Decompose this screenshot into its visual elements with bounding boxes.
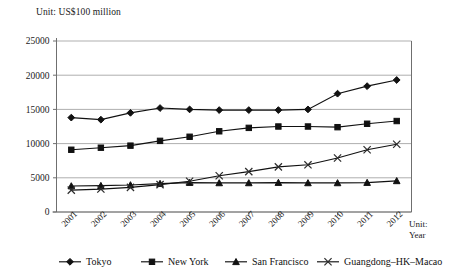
- data-point: [157, 105, 164, 112]
- y-tick-label: 15000: [26, 105, 50, 115]
- data-point: [69, 147, 74, 152]
- data-point: [128, 143, 133, 148]
- data-point: [276, 124, 281, 129]
- chart-legend: TokyoNew YorkSan FranciscoGuangdong–HK–M…: [59, 256, 442, 267]
- data-point: [98, 145, 103, 150]
- series-tokyo: [68, 77, 400, 123]
- data-point: [216, 107, 223, 114]
- data-point: [187, 134, 192, 139]
- data-point: [68, 114, 75, 121]
- legend-label: New York: [168, 256, 209, 267]
- data-point: [334, 90, 341, 97]
- y-tick-label: 5000: [31, 173, 50, 183]
- y-tick-label: 20000: [26, 71, 50, 81]
- gridlines: [57, 41, 412, 212]
- data-point: [364, 121, 369, 126]
- line-chart: Unit: US$100 million Unit: Year 05000100…: [0, 0, 449, 276]
- data-point: [246, 125, 251, 130]
- data-point: [364, 83, 371, 90]
- series-line: [71, 121, 396, 150]
- data-point: [393, 77, 400, 84]
- data-point: [127, 109, 134, 116]
- data-point: [275, 107, 282, 114]
- legend-marker-square: [149, 259, 154, 264]
- legend-item-guangdong-hk-macao[interactable]: Guangdong–HK–Macao: [317, 256, 442, 267]
- series-san-francisco: [68, 178, 400, 189]
- legend-label: San Francisco: [252, 256, 308, 267]
- data-point: [305, 106, 312, 113]
- data-point: [217, 129, 222, 134]
- legend-item-tokyo[interactable]: Tokyo: [59, 256, 111, 267]
- y-tick-label: 0: [45, 207, 50, 217]
- y-tick-label: 10000: [26, 139, 50, 149]
- data-point: [157, 138, 162, 143]
- y-tick-label: 25000: [26, 36, 50, 46]
- data-point: [97, 116, 104, 123]
- series-new-york: [69, 118, 400, 152]
- data-point: [305, 124, 310, 129]
- series-line: [71, 181, 396, 186]
- data-point: [394, 118, 399, 123]
- y-axis-tick-labels: 0500010000150002000025000: [26, 36, 50, 217]
- legend-item-new-york[interactable]: New York: [141, 256, 209, 267]
- series-layer: [68, 77, 401, 194]
- legend-label: Tokyo: [86, 256, 111, 267]
- data-point: [186, 106, 193, 113]
- legend-marker-diamond: [67, 258, 74, 265]
- series-line: [71, 80, 396, 120]
- legend-item-san-francisco[interactable]: San Francisco: [225, 256, 308, 267]
- data-point: [335, 124, 340, 129]
- legend-label: Guangdong–HK–Macao: [344, 256, 442, 267]
- chart-canvas: 0500010000150002000025000 20012002200320…: [0, 0, 449, 276]
- data-point: [245, 107, 252, 114]
